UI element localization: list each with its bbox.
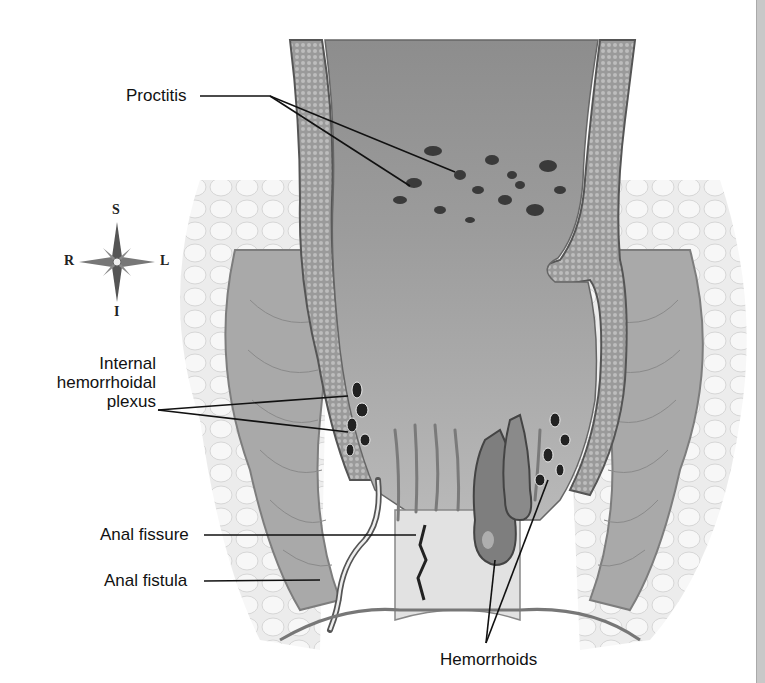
page-edge-bar bbox=[756, 0, 765, 683]
compass-right: R bbox=[64, 253, 74, 269]
label-hemorrhoids: Hemorrhoids bbox=[440, 650, 537, 669]
compass-inferior: I bbox=[114, 304, 119, 320]
compass-rose-icon bbox=[79, 222, 155, 302]
label-plexus-line3: plexus bbox=[40, 392, 156, 411]
label-anal-fissure: Anal fissure bbox=[100, 525, 189, 544]
label-anal-fistula: Anal fistula bbox=[104, 571, 187, 590]
label-plexus-line1: Internal bbox=[40, 354, 156, 373]
compass-superior: S bbox=[112, 202, 120, 218]
label-internal-hemorrhoidal-plexus: Internal hemorrhoidal plexus bbox=[40, 354, 156, 411]
label-plexus-line2: hemorrhoidal bbox=[40, 373, 156, 392]
compass-left: L bbox=[160, 253, 169, 269]
label-proctitis: Proctitis bbox=[126, 86, 186, 105]
